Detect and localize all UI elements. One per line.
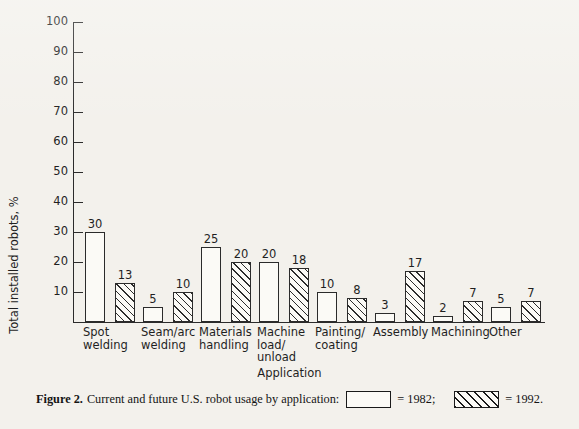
bar-value-label: 17 (408, 257, 423, 270)
bar-1992: 13 (115, 283, 135, 322)
y-tick-10: 10 (73, 292, 83, 293)
bar-value-label: 20 (262, 248, 277, 261)
figure-robot-usage-by-application: Total installed robots, % 10203040506070… (0, 0, 579, 429)
y-tick-mark (74, 262, 83, 263)
bar-value-label: 10 (176, 278, 191, 291)
bar-value-label: 25 (204, 233, 219, 246)
bar-value-label: 5 (149, 293, 156, 306)
legend-label-1982: = 1982; (397, 391, 435, 408)
bar-pair: 2520 (201, 22, 253, 322)
y-tick-50: 50 (73, 172, 83, 173)
caption-figure-number: Figure 2. (36, 391, 83, 408)
x-category-label: Assembly (373, 326, 428, 339)
y-tick-label: 10 (53, 284, 68, 299)
y-tick-mark (74, 142, 83, 143)
y-tick-label: 90 (53, 44, 68, 59)
y-tick-30: 30 (73, 232, 83, 233)
bar-value-label: 20 (234, 248, 249, 261)
x-category-label: Materials handling (199, 326, 252, 351)
bar-value-label: 18 (292, 254, 307, 267)
bar-group: 2018Machine load/ unload (259, 22, 311, 322)
bar-1992: 7 (521, 301, 541, 322)
bar-1982: 30 (85, 232, 105, 322)
bar-value-label: 7 (469, 287, 476, 300)
x-category-label: Machine load/ unload (257, 326, 305, 364)
y-tick-label: 40 (53, 194, 68, 209)
bar-group: 2520Materials handling (201, 22, 253, 322)
bar-group: 57Other (491, 22, 543, 322)
bar-value-label: 30 (88, 218, 103, 231)
x-category-label: Painting/ coating (315, 326, 365, 351)
bar-pair: 57 (491, 22, 543, 322)
plot-area: 102030405060708090100 3013Spot welding51… (73, 22, 545, 322)
y-tick-label: 80 (53, 74, 68, 89)
y-tick-40: 40 (73, 202, 83, 203)
bar-pair: 3013 (85, 22, 137, 322)
bar-value-label: 13 (118, 269, 133, 282)
y-tick-90: 90 (73, 52, 83, 53)
bar-1982: 3 (375, 313, 395, 322)
bar-1982: 5 (491, 307, 511, 322)
y-tick-70: 70 (73, 112, 83, 113)
legend-item-1992: = 1992. (454, 391, 548, 408)
bar-value-label: 10 (320, 278, 335, 291)
x-category-label: Machining (431, 326, 490, 339)
y-tick-label: 60 (53, 134, 68, 149)
y-tick-mark (74, 202, 83, 203)
bar-group: 317Assembly (375, 22, 427, 322)
y-axis-title: Total installed robots, % (7, 196, 21, 334)
x-axis-title: Application (0, 366, 579, 380)
bar-1982: 10 (317, 292, 337, 322)
bar-1992: 7 (463, 301, 483, 322)
y-tick-mark (74, 82, 83, 83)
bar-group: 27Machining (433, 22, 485, 322)
y-tick-label: 30 (53, 224, 68, 239)
y-tick-100: 100 (73, 22, 83, 23)
y-tick-label: 100 (46, 14, 68, 29)
y-tick-mark (74, 52, 83, 53)
bar-pair: 317 (375, 22, 427, 322)
y-tick-mark (74, 112, 83, 113)
y-tick-label: 70 (53, 104, 68, 119)
legend-label-1992: = 1992. (505, 391, 543, 408)
y-tick-mark (74, 172, 83, 173)
y-tick-label: 20 (53, 254, 68, 269)
x-axis-line (73, 322, 545, 323)
y-tick-60: 60 (73, 142, 83, 143)
bar-1982: 20 (259, 262, 279, 322)
bar-pair: 2018 (259, 22, 311, 322)
y-tick-mark (74, 22, 83, 23)
bar-group: 108Painting/ coating (317, 22, 369, 322)
figure-caption: Figure 2. Current and future U.S. robot … (36, 391, 556, 408)
x-category-label: Seam/arc welding (141, 326, 195, 351)
bar-group: 510Seam/arc welding (143, 22, 195, 322)
bar-1992: 8 (347, 298, 367, 322)
caption-text: Current and future U.S. robot usage by a… (87, 391, 339, 408)
bar-1992: 18 (289, 268, 309, 322)
x-category-label: Other (489, 326, 522, 339)
legend-swatch-hatched-icon (454, 391, 499, 408)
bar-1982: 2 (433, 316, 453, 322)
legend-item-1982: = 1982; (346, 391, 440, 408)
bar-value-label: 2 (439, 302, 446, 315)
bar-value-label: 7 (527, 287, 534, 300)
bar-1982: 25 (201, 247, 221, 322)
bar-value-label: 3 (381, 299, 388, 312)
y-tick-label: 50 (53, 164, 68, 179)
bar-pair: 510 (143, 22, 195, 322)
x-category-label: Spot welding (83, 326, 128, 351)
y-tick-80: 80 (73, 82, 83, 83)
bar-group: 3013Spot welding (85, 22, 137, 322)
bar-pair: 108 (317, 22, 369, 322)
y-tick-mark (74, 292, 83, 293)
bar-1992: 17 (405, 271, 425, 322)
bar-1982: 5 (143, 307, 163, 322)
legend-swatch-open-icon (346, 391, 391, 408)
bar-value-label: 5 (497, 293, 504, 306)
bar-1992: 20 (231, 262, 251, 322)
y-tick-mark (74, 232, 83, 233)
bar-pair: 27 (433, 22, 485, 322)
bar-value-label: 8 (353, 284, 360, 297)
y-tick-20: 20 (73, 262, 83, 263)
bar-1992: 10 (173, 292, 193, 322)
